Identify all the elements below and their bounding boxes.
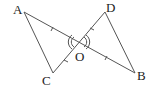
tick-CO <box>64 60 68 62</box>
segment-DB <box>105 12 135 73</box>
label-D: D <box>106 0 115 15</box>
label-O: O <box>75 49 84 64</box>
label-C: C <box>42 73 51 88</box>
label-B: B <box>137 68 146 83</box>
geometry-diagram: A D O C B <box>0 0 151 89</box>
label-A: A <box>13 2 23 17</box>
diagram-svg: A D O C B <box>0 0 151 89</box>
segment-AC <box>24 12 53 73</box>
